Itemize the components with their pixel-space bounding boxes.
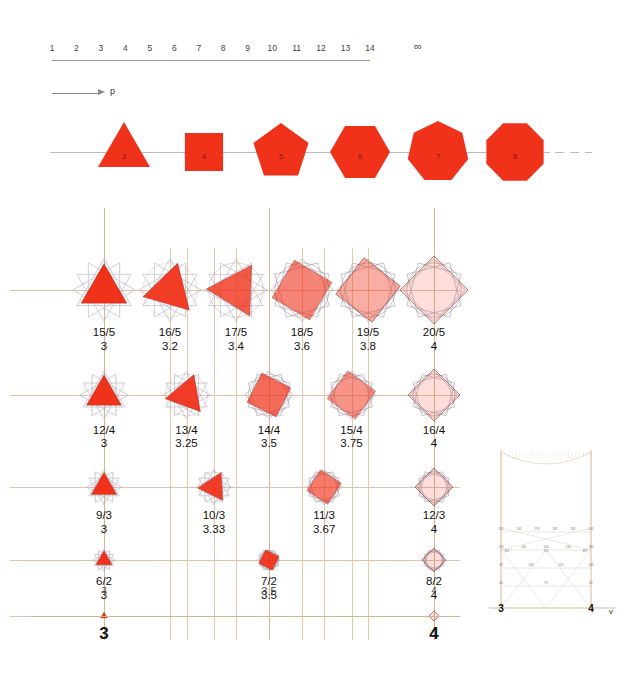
inset-axis-label: v <box>609 607 613 616</box>
inset-tree-graphic: 6/27/28/29/310/311/312/312/413/414/415/4… <box>487 440 615 620</box>
inset-fraction-label: 9/3 <box>499 563 503 567</box>
axis-end-label-3: 3 <box>99 624 108 644</box>
inset-fraction-label: 10/3 <box>528 563 534 567</box>
inset-fraction-label: 11/3 <box>559 563 564 567</box>
inset-fraction-label: 8/2 <box>589 581 593 585</box>
inset-fraction-label: 17/5 <box>534 527 540 531</box>
inset-fraction-label: 16/5 <box>516 527 522 531</box>
inset-left-label: 3 <box>498 603 504 614</box>
inset-fraction-label: 15/4 <box>566 545 572 549</box>
inset-mediant-label: 7/2 <box>544 549 549 553</box>
inset-fraction-label: 6/2 <box>505 549 510 553</box>
stern-brocot-inset: 6/27/28/29/310/311/312/312/413/414/415/4… <box>487 440 615 620</box>
inset-fraction-label: 19/5 <box>570 527 576 531</box>
inset-fraction-label: 13/4 <box>521 545 527 549</box>
inset-fraction-label: 18/5 <box>552 527 558 531</box>
inset-fraction-label: 20/5 <box>588 527 594 531</box>
inset-fraction-label: 6/2 <box>499 581 503 585</box>
inset-right-label: 4 <box>588 603 594 614</box>
inset-fraction-label: 16/4 <box>588 545 594 549</box>
axis-midpoint-label: 3.5 <box>261 585 276 597</box>
inset-fraction-label: 8/2 <box>583 549 588 553</box>
inset-fraction-label: 7/2 <box>544 581 548 585</box>
inset-fraction-label: 12/4 <box>498 545 504 549</box>
axis-end-label-4: 4 <box>429 624 438 644</box>
axis-top-label-4: 4 <box>431 585 436 595</box>
axis-top-label-3: 3 <box>101 585 106 595</box>
inset-fraction-label: 12/3 <box>588 563 594 567</box>
